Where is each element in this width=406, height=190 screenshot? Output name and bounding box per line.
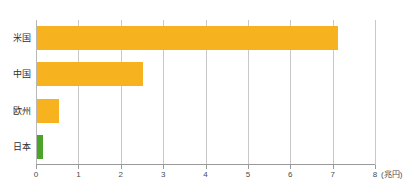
x-tick-label: 6 (288, 169, 292, 180)
plot-area (36, 20, 375, 165)
bar (37, 26, 338, 50)
x-tick-label: 7 (330, 169, 334, 180)
x-tick-label: 8 (373, 169, 377, 180)
x-tick-label: 5 (246, 169, 250, 180)
category-label: 欧州 (0, 106, 31, 116)
chart-title (0, 0, 406, 3)
x-tick-label: 0 (34, 169, 38, 180)
category-label: 米国 (0, 33, 31, 43)
x-axis-unit-label: (兆円) (381, 169, 402, 180)
category-label: 中国 (0, 69, 31, 79)
x-axis-labels: (兆円) 012345678 (0, 169, 406, 183)
bar (37, 62, 143, 86)
category-label: 日本 (0, 142, 31, 152)
gridline (375, 20, 376, 165)
bar-chart: 米国中国欧州日本 (兆円) 012345678 (0, 0, 406, 190)
x-tick-label: 4 (203, 169, 207, 180)
bar (37, 99, 59, 123)
x-tick-label: 1 (76, 169, 80, 180)
x-tick-label: 3 (161, 169, 165, 180)
x-tick-label: 2 (119, 169, 123, 180)
bar (37, 135, 43, 159)
category-axis-labels: 米国中国欧州日本 (0, 20, 36, 165)
